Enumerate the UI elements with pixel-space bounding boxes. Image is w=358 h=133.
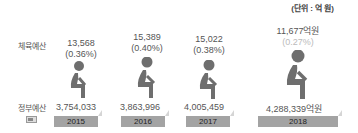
sports-value: 15,389 [124,32,170,43]
budget-icon [26,116,37,123]
row-label-government: 정부예산 [18,102,46,113]
sports-value: 15,022 [186,34,232,45]
year-bar-2017: 2017 [186,116,230,127]
sports-pct: (0.36%) [58,49,104,60]
person-figure-icon [282,50,314,102]
year-bar-2015: 2015 [54,116,98,127]
sports-value: 13,568 [58,38,104,49]
sports-pct: (0.38%) [186,45,232,56]
sports-pct: (0.27%) [268,37,328,48]
person-figure-icon [66,61,92,101]
unit-label: (단위 : 억 원) [291,2,334,13]
year-bar-2016: 2016 [121,116,165,127]
gov-budget-2018: 4,288,339억원 [266,102,322,115]
sports-pct: (0.40%) [124,43,170,54]
sports-budget-2017: 15,022 (0.38%) [186,34,232,56]
sports-value: 11,677억원 [268,26,328,37]
person-figure-icon [133,57,161,101]
sports-budget-2018: 11,677억원 (0.27%) [268,26,328,48]
gov-budget-2016: 3,863,996 [120,102,160,112]
sports-budget-2016: 15,389 (0.40%) [124,32,170,54]
gov-budget-2015: 3,754,033 [56,102,96,112]
person-figure-icon [196,60,222,102]
sports-budget-2015: 13,568 (0.36%) [58,38,104,60]
row-label-sports: 체육예산 [18,40,46,51]
gov-budget-2017: 4,005,459 [184,102,224,112]
year-bar-2018: 2018 [258,116,338,127]
